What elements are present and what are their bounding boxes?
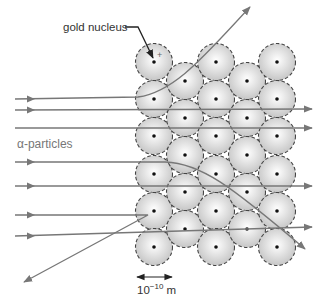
nucleus-dot-icon	[152, 97, 156, 101]
nucleus-dot-icon	[275, 97, 279, 101]
nucleus-dot-icon	[183, 153, 187, 157]
nucleus-dot-icon	[152, 245, 156, 249]
nucleus-dot-icon	[183, 116, 187, 120]
nucleus-dot-icon	[275, 172, 279, 176]
nucleus-dot-icon	[152, 172, 156, 176]
nucleus-dot-icon	[214, 60, 218, 64]
nucleus-dot-icon	[152, 209, 156, 213]
nucleus-dot-icon	[152, 134, 156, 138]
gold-atom	[259, 156, 296, 193]
direction-arrow-icon	[27, 183, 35, 190]
direction-arrow-icon	[27, 212, 35, 219]
nucleus-dot-icon	[214, 97, 218, 101]
direction-arrow-icon	[27, 107, 35, 114]
gold-atom	[259, 81, 296, 118]
nucleus-dot-icon	[214, 172, 218, 176]
gold-atom	[259, 44, 296, 81]
direction-arrow-icon	[27, 96, 35, 103]
nucleus-dot-icon	[245, 153, 249, 157]
nucleus-dot-icon	[214, 134, 218, 138]
plus-sign-icon: +	[157, 50, 162, 60]
rutherford-scattering-diagram: gold nucleus + α-particles 10−10 m	[0, 0, 325, 305]
nucleus-dot-icon	[275, 209, 279, 213]
scale-bar: 10−10 m	[137, 277, 176, 296]
gold-atom	[259, 229, 296, 266]
direction-arrow-icon	[27, 233, 35, 240]
nucleus-dot-icon	[183, 79, 187, 83]
nucleus-dot-icon	[275, 60, 279, 64]
nucleus-dot-icon	[183, 190, 187, 194]
scale-label: 10−10 m	[137, 282, 176, 296]
trajectory-backscattered	[15, 215, 148, 282]
nucleus-dot-icon	[275, 245, 279, 249]
alpha-particles-label: α-particles	[17, 137, 73, 151]
nucleus-dot-icon	[245, 79, 249, 83]
gold-atom	[259, 118, 296, 155]
nucleus-dot-icon	[152, 60, 156, 64]
gold-atom	[259, 193, 296, 230]
nucleus-dot-icon	[245, 116, 249, 120]
nucleus-dot-icon	[245, 190, 249, 194]
nucleus-dot-icon	[214, 209, 218, 213]
gold-nucleus-label: gold nucleus	[63, 21, 128, 33]
nucleus-dot-icon	[275, 134, 279, 138]
direction-arrow-icon	[27, 159, 35, 166]
nucleus-dot-icon	[214, 245, 218, 249]
